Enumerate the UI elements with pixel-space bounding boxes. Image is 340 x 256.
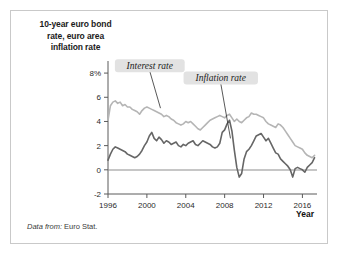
- y-tick-label: 6: [97, 93, 102, 102]
- chart-annotations-group: Interest rateInflation rate: [115, 59, 258, 138]
- series-line-interest-rate: [108, 101, 315, 158]
- source-note: Data from: Euro Stat.: [27, 222, 97, 231]
- chart-canvas: -202468% 199620002004200820122016 Intere…: [11, 11, 329, 245]
- y-tick-label: 0: [97, 166, 102, 175]
- x-tick-label: 2004: [177, 201, 195, 210]
- x-tick-label: 2000: [138, 201, 156, 210]
- annotation-leader-line: [150, 71, 161, 108]
- y-axis-ticks: -202468%: [89, 69, 108, 199]
- figure-panel: 10-year euro bond rate, euro area inflat…: [10, 10, 328, 244]
- source-prefix: Data from:: [27, 222, 62, 231]
- annotation-label-inflation-rate: Inflation rate: [195, 73, 246, 83]
- y-tick-label: -2: [94, 190, 102, 199]
- y-tick-label: 4: [97, 117, 102, 126]
- annotation-label-interest-rate: Interest rate: [126, 61, 173, 71]
- y-tick-label: 2: [97, 142, 102, 151]
- y-tick-label: 8%: [89, 69, 101, 78]
- data-series-group: [108, 101, 315, 177]
- x-tick-label: 2012: [255, 201, 273, 210]
- x-tick-label: 2008: [216, 201, 234, 210]
- x-tick-label: 1996: [99, 201, 117, 210]
- x-axis-title: Year: [296, 209, 315, 219]
- x-axis-ticks: 199620002004200820122016: [99, 194, 312, 210]
- annotation-leader-line: [221, 83, 231, 138]
- source-value: Euro Stat.: [62, 222, 97, 231]
